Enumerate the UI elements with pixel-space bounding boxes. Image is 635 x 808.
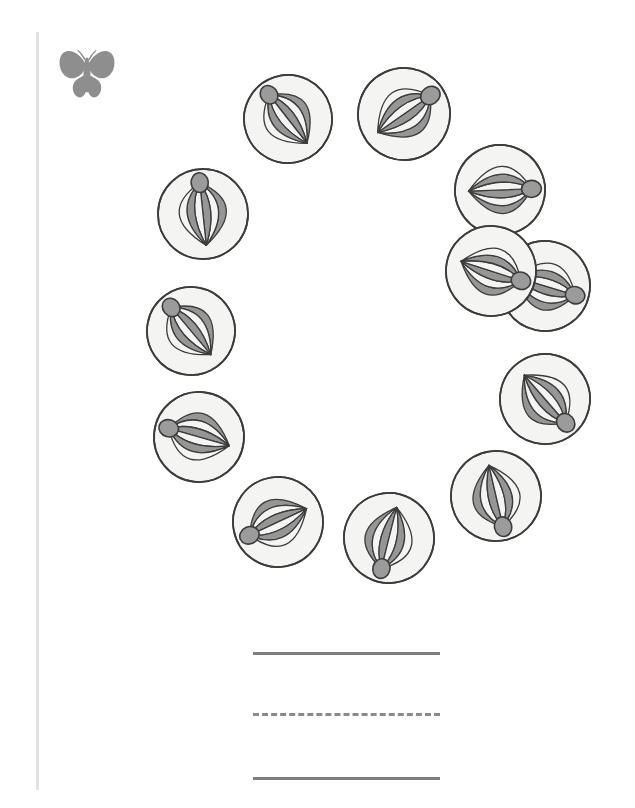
- butterfly-icon: [56, 48, 118, 100]
- beach-ball-7: [341, 490, 437, 586]
- writing-line-middle: [253, 713, 440, 716]
- beach-ball-12: [443, 223, 539, 319]
- beach-ball-3: [452, 142, 548, 238]
- beach-ball-10: [144, 284, 238, 378]
- beach-ball-6: [448, 448, 544, 544]
- writing-line-top: [253, 652, 440, 655]
- beach-ball-4: [497, 238, 593, 334]
- beach-ball-9: [151, 389, 247, 485]
- beach-ball-2: [355, 65, 453, 163]
- left-margin-rule: [36, 32, 39, 790]
- worksheet-page: Beach Ball Circle Tracing Worksheet: [0, 0, 635, 808]
- beach-ball-1: [241, 72, 335, 166]
- writing-line-bottom: [253, 777, 440, 780]
- beach-ball-5: [497, 351, 593, 447]
- beach-ball-ring: [0, 0, 635, 808]
- beach-ball-11: [155, 166, 251, 262]
- beach-ball-8: [230, 474, 326, 570]
